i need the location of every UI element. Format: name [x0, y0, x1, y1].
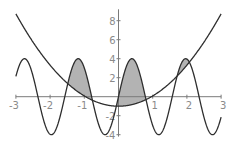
- y-tick-label: 8: [109, 16, 115, 27]
- x-tick-label: -1: [77, 100, 87, 111]
- y-tick-label: 6: [109, 35, 115, 46]
- function-plot: -3-2-1123 -4-22468: [0, 0, 240, 146]
- x-tick-label: 2: [186, 100, 192, 111]
- y-tick-label: 2: [109, 73, 115, 84]
- x-tick-label: -3: [9, 100, 19, 111]
- x-tick-label: 3: [220, 100, 226, 111]
- y-tick-label: -4: [106, 130, 116, 141]
- x-tick-label: 1: [152, 100, 158, 111]
- y-tick-label: 4: [109, 54, 115, 65]
- x-tick-label: -2: [43, 100, 53, 111]
